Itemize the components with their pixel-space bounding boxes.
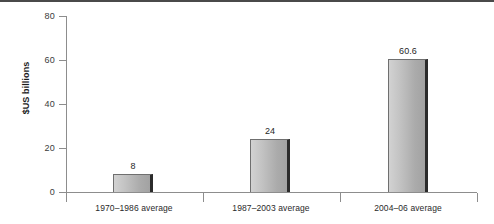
y-tick-label-20: 20 — [33, 143, 55, 153]
x-tick-start — [66, 193, 67, 202]
x-axis-line — [66, 192, 477, 193]
bar-1987-2003 — [250, 139, 290, 192]
bar-chart: $US billions 0 20 40 60 80 8 24 60.6 197… — [0, 0, 494, 224]
y-tick-label-60: 60 — [33, 55, 55, 65]
y-tick-label-80: 80 — [33, 11, 55, 21]
category-label-1: 1970–1986 average — [64, 203, 204, 213]
bar-value-1970-1986: 8 — [103, 161, 163, 171]
category-label-2: 1987–2003 average — [201, 203, 341, 213]
y-tick-80 — [59, 16, 67, 17]
x-tick-end — [477, 193, 478, 202]
x-tick-sep-2 — [340, 193, 341, 202]
y-tick-40 — [59, 104, 67, 105]
bar-value-1987-2003: 24 — [240, 126, 300, 136]
y-tick-label-40: 40 — [33, 99, 55, 109]
y-tick-60 — [59, 60, 67, 61]
y-axis-title: $US billions — [21, 48, 31, 128]
x-tick-sep-1 — [203, 193, 204, 202]
y-tick-20 — [59, 148, 67, 149]
category-label-3: 2004–06 average — [338, 203, 478, 213]
y-tick-label-0: 0 — [33, 187, 55, 197]
bar-value-2004-06: 60.6 — [378, 46, 438, 56]
bar-1970-1986 — [113, 174, 153, 192]
bar-2004-06 — [388, 59, 428, 192]
